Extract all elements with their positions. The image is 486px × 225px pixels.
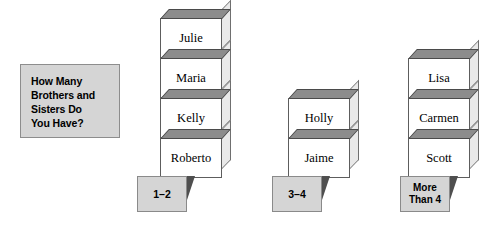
cube-side-face xyxy=(350,120,359,169)
cube-name-label: Roberto xyxy=(160,138,222,178)
cube-name-label: Scott xyxy=(408,138,470,178)
name-cube: Roberto xyxy=(160,129,222,169)
name-cube: Maria xyxy=(160,49,222,89)
tent-card-label: 3–4 xyxy=(272,176,322,212)
name-cube: Scott xyxy=(408,129,470,169)
cube-side-face xyxy=(470,120,479,169)
question-text: How Many Brothers and Sisters Do You Hav… xyxy=(31,74,117,130)
category-tent-card: More Than 4 xyxy=(400,176,458,212)
tent-card-label: More Than 4 xyxy=(400,176,450,212)
name-cube: Carmen xyxy=(408,89,470,129)
name-cube: Lisa xyxy=(408,49,470,89)
tent-card-label: 1–2 xyxy=(137,176,187,212)
pictograph-canvas: How Many Brothers and Sisters Do You Hav… xyxy=(0,0,486,225)
category-tent-card: 3–4 xyxy=(272,176,330,212)
question-box: How Many Brothers and Sisters Do You Hav… xyxy=(20,64,120,138)
name-cube: Jaime xyxy=(288,129,350,169)
name-cube: Julie xyxy=(160,9,222,49)
cube-name-label: Jaime xyxy=(288,138,350,178)
cube-side-face xyxy=(222,120,231,169)
name-cube: Holly xyxy=(288,89,350,129)
category-tent-card: 1–2 xyxy=(137,176,195,212)
name-cube: Kelly xyxy=(160,89,222,129)
